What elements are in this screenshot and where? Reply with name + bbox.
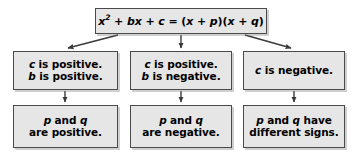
result-middle-line1: p and q — [159, 115, 203, 127]
result-left-and: and — [51, 114, 80, 126]
equation-op-plus4: + — [234, 15, 251, 28]
condition-middle-line2: b is negative. — [141, 71, 220, 83]
result-middle-var-q: q — [195, 114, 202, 126]
result-right-line1: p and q have — [256, 115, 331, 127]
result-box-right: p and q have different signs. — [243, 105, 345, 148]
equation-var-p: p — [210, 15, 218, 28]
condition-left-text2: is positive. — [36, 70, 103, 82]
equation-text: x2 + bx + c = (x + p)(x + q) — [98, 14, 264, 28]
condition-left-var-b: b — [28, 70, 35, 82]
condition-box-left: c is positive. b is positive. — [13, 51, 118, 90]
result-left-var-p: p — [44, 114, 51, 126]
equation-equals: = ( — [165, 15, 187, 28]
result-right-and: and — [264, 114, 293, 126]
result-left-var-q: q — [80, 114, 87, 126]
result-middle-and: and — [167, 114, 196, 126]
result-box-middle: p and q are negative. — [130, 105, 232, 148]
condition-middle-var-b: b — [141, 70, 148, 82]
result-box-left: p and q are positive. — [13, 105, 118, 148]
result-right-var-q: q — [293, 114, 300, 126]
result-right-var-p: p — [256, 114, 263, 126]
result-middle-line2: are negative. — [142, 127, 220, 139]
condition-box-right: c is negative. — [243, 51, 345, 90]
result-right-line2: different signs. — [249, 127, 338, 139]
condition-right-text1: is negative. — [261, 64, 333, 76]
flowchart-diagram: x2 + bx + c = (x + p)(x + q) c is positi… — [0, 0, 359, 161]
equation-op-plus3: + — [193, 15, 210, 28]
equation-var-b: b — [127, 15, 135, 28]
result-left-line1: p and q — [44, 115, 88, 127]
result-left-line2: are positive. — [29, 127, 102, 139]
condition-left-line2: b is positive. — [28, 71, 102, 83]
arrow-equation-to-left-condition — [68, 35, 118, 48]
equation-var-q: q — [251, 15, 259, 28]
condition-left-text1: is positive. — [35, 58, 102, 70]
result-middle-var-p: p — [159, 114, 166, 126]
condition-middle-text2: is negative. — [149, 70, 221, 82]
equation-op-plus2: + — [142, 15, 159, 28]
result-right-have: have — [300, 114, 332, 126]
arrow-equation-to-right-condition — [245, 35, 291, 48]
equation-box: x2 + bx + c = (x + p)(x + q) — [95, 8, 267, 34]
equation-paren-close: ) — [259, 15, 264, 28]
equation-paren-mid: )( — [218, 15, 228, 28]
equation-var-x2: x — [135, 15, 142, 28]
condition-right-line1: c is negative. — [255, 65, 333, 77]
condition-middle-text1: is positive. — [151, 58, 218, 70]
condition-box-middle: c is positive. b is negative. — [130, 51, 232, 90]
equation-op-plus1: + — [110, 15, 127, 28]
